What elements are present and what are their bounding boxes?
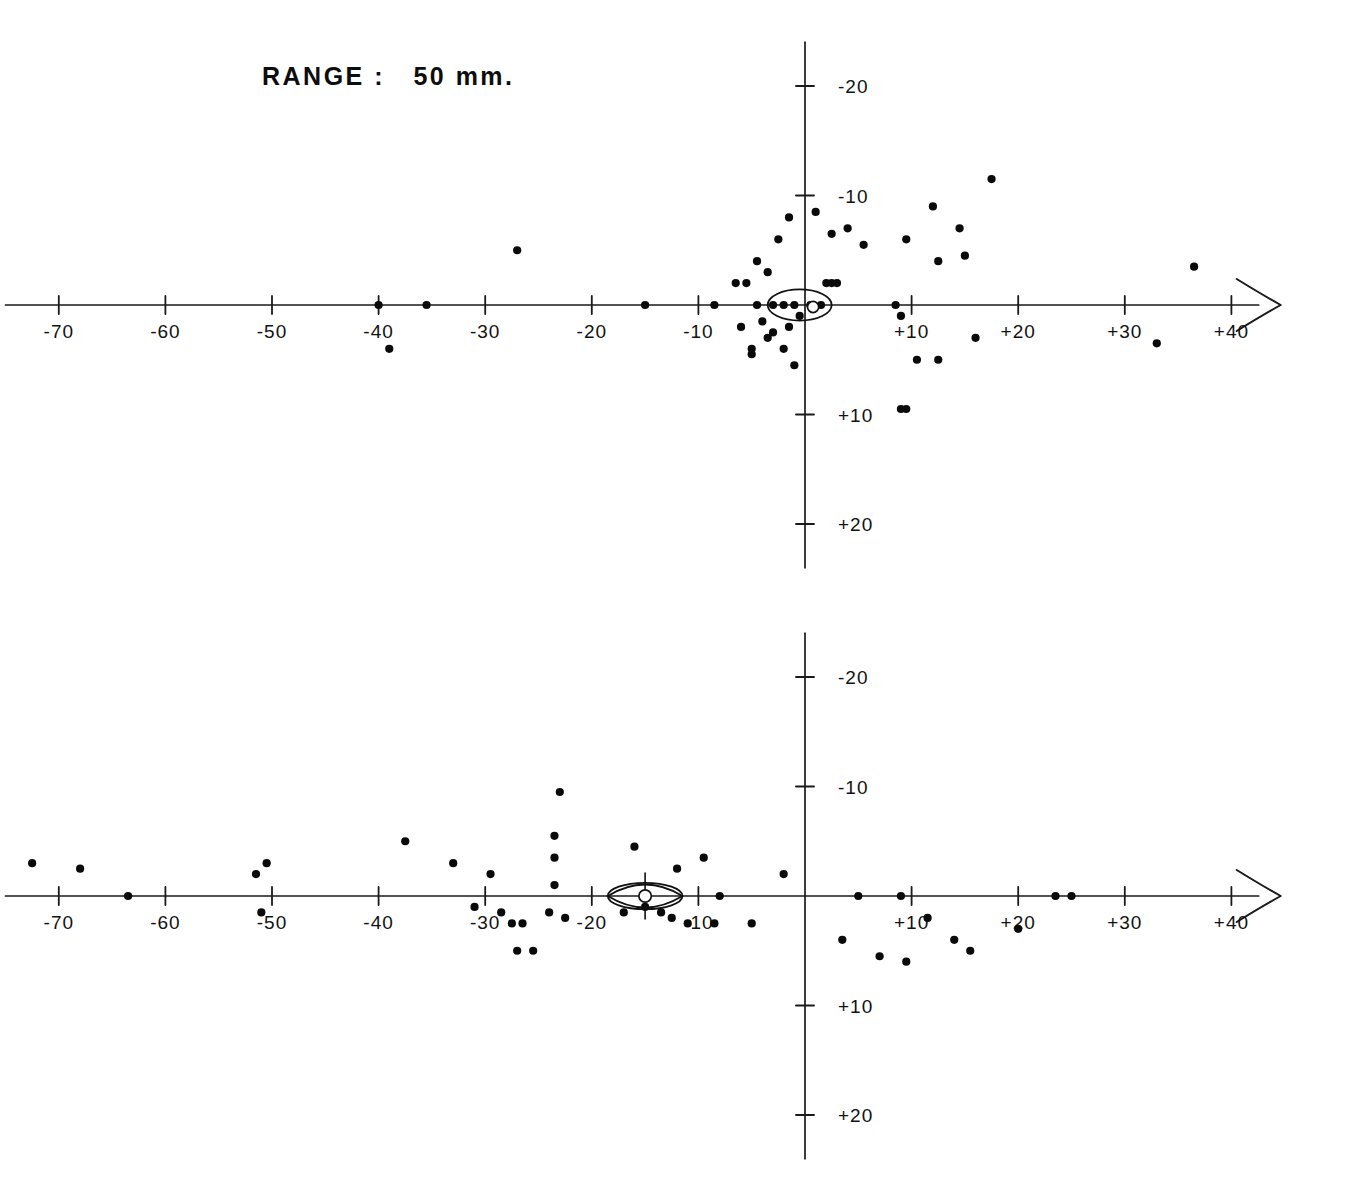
x-axis-tick-label: -20 [577,321,607,342]
data-point [987,175,995,183]
scatter-panel-range-50: RANGE : 50 mm. -70-60-50-40-30-20-10+10+… [0,0,1362,600]
y-axis-tick-label: +20 [838,514,873,535]
data-point [486,870,494,878]
data-point [252,870,260,878]
data-point [1190,263,1198,271]
data-point [401,837,409,845]
data-point [668,914,676,922]
data-point [790,301,798,309]
data-point [641,301,649,309]
x-axis-tick-label: -70 [44,321,74,342]
data-point [758,317,766,325]
data-point-group [375,175,1199,413]
data-point [422,301,430,309]
data-point [545,908,553,916]
data-point [28,859,36,867]
data-point [902,405,910,413]
data-point [449,859,457,867]
data-point [860,241,868,249]
data-point [748,350,756,358]
x-axis-tick-label: +20 [1001,321,1036,342]
scatter-plot-range-100: -70-60-50-40-30-20-10+10+20+30+40-20-10+… [0,600,1362,1177]
x-axis-tick-label: +40 [1214,912,1249,933]
data-point [753,301,761,309]
data-point [780,870,788,878]
x-axis-tick-label: -30 [470,912,500,933]
data-point [561,914,569,922]
data-point [513,947,521,955]
data-point [1153,339,1161,347]
data-point-group [28,788,1076,966]
data-point [764,268,772,276]
data-point [700,854,708,862]
data-point [897,312,905,320]
data-point [753,257,761,265]
data-point [76,865,84,873]
x-axis-tick-label: -60 [150,321,180,342]
data-point [934,356,942,364]
x-axis-tick-label: -50 [257,321,287,342]
data-point [774,235,782,243]
data-point [257,908,265,916]
data-point [470,903,478,911]
scatter-panel-range-100: RANGE : 100 mm. -70-60-50-40-30-20-10+10… [0,600,1362,1177]
data-point [897,892,905,900]
data-point [1014,925,1022,933]
y-axis-tick-label: -10 [838,777,868,798]
data-point [785,213,793,221]
data-point [854,892,862,900]
data-point [812,208,820,216]
data-point [780,345,788,353]
data-point [892,301,900,309]
data-point [529,947,537,955]
data-point [748,919,756,927]
data-point [737,323,745,331]
data-point [844,224,852,232]
x-axis-tick-label: +30 [1107,321,1142,342]
data-point [497,908,505,916]
data-point [913,356,921,364]
x-axis-tick-label: -70 [44,912,74,933]
scatter-plot-range-50: -70-60-50-40-30-20-10+10+20+30+40-20-10+… [0,0,1362,600]
x-axis-tick-label: +40 [1214,321,1249,342]
data-point [790,361,798,369]
data-point [742,279,750,287]
x-axis-tick-label: -40 [363,321,393,342]
data-point [785,323,793,331]
y-axis-tick-label: +20 [838,1105,873,1126]
x-axis-tick-label: -60 [150,912,180,933]
x-axis-tick-label: -30 [470,321,500,342]
y-axis-tick-label: -10 [838,186,868,207]
data-point [1067,892,1075,900]
data-point [923,914,931,922]
data-point [838,936,846,944]
data-point [796,312,804,320]
data-point [710,301,718,309]
x-axis-tick-label: -20 [577,912,607,933]
data-point [1051,892,1059,900]
y-axis-tick-label: -20 [838,76,868,97]
y-axis-tick-label: +10 [838,996,873,1017]
data-point [934,257,942,265]
ellipse-center-marker [808,301,819,312]
ellipse-center-marker [639,890,651,902]
data-point [550,881,558,889]
data-point [902,958,910,966]
data-point [513,246,521,254]
x-axis-tick-label: -40 [363,912,393,933]
data-point [769,328,777,336]
data-point [902,235,910,243]
data-point [508,919,516,927]
data-point [385,345,393,353]
data-point [929,202,937,210]
data-point [263,859,271,867]
x-axis-tick-label: +10 [894,912,929,933]
data-point [716,892,724,900]
y-axis-tick-label: +10 [838,405,873,426]
data-point [966,947,974,955]
data-point [961,252,969,260]
data-point [732,279,740,287]
data-point [780,301,788,309]
data-point [769,301,777,309]
data-point [657,908,665,916]
